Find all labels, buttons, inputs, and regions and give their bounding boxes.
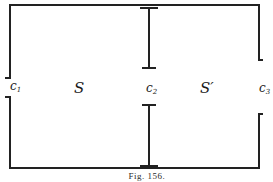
circuit-diagram: c1 S c2 S′ c3 Fig. 156. [0,0,273,182]
left-wall-upper [6,5,10,78]
left-wall-lower [6,97,10,168]
central-lower-bar [141,105,157,168]
label-c3: c3 [259,81,271,96]
label-s-prime: S′ [200,79,214,97]
right-wall-upper [259,5,262,60]
label-c1: c1 [10,79,21,94]
central-upper-bar [141,8,157,68]
label-c2: c2 [146,81,158,96]
figure-caption: Fig. 156. [129,171,166,181]
right-wall-lower [259,114,262,168]
label-s: S [74,79,84,97]
